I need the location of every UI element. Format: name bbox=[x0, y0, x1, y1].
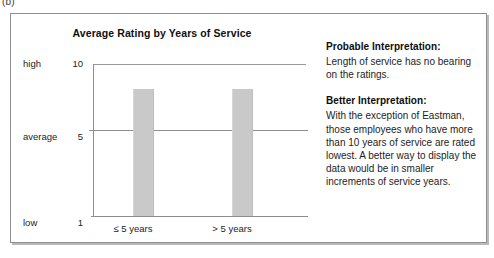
figure-panel: Average Rating by Years of Service high … bbox=[10, 13, 487, 243]
x-axis-tick-le-5-years: ≤ 5 years bbox=[90, 223, 176, 234]
interpretation-column: Probable Interpretation: Length of servi… bbox=[326, 40, 484, 202]
y-axis-tick-high-number: 10 bbox=[72, 58, 83, 70]
x-axis-line bbox=[91, 216, 308, 217]
bar-le-5-years bbox=[133, 89, 154, 216]
bar-gt-5-years bbox=[232, 89, 253, 216]
bar-chart: Average Rating by Years of Service high … bbox=[11, 14, 321, 244]
probable-interpretation-body: Length of service has no bearing on the … bbox=[326, 55, 484, 81]
y-axis-tick-low-word: low bbox=[23, 217, 37, 229]
y-axis-tick-low: low 1 bbox=[11, 217, 87, 229]
y-axis-tick-average-number: 5 bbox=[78, 131, 83, 143]
y-axis-tick-high: high 10 bbox=[11, 58, 87, 70]
better-interpretation-block: Better Interpretation: With the exceptio… bbox=[326, 94, 484, 188]
chart-title: Average Rating by Years of Service bbox=[11, 27, 313, 39]
probable-interpretation-heading: Probable Interpretation: bbox=[326, 40, 484, 54]
y-axis-tick-average: average 5 bbox=[11, 131, 87, 143]
x-axis-tick-gt-5-years: > 5 years bbox=[189, 223, 275, 234]
gridline-average bbox=[89, 130, 308, 131]
plot-top-rule bbox=[93, 64, 306, 65]
figure-label: (b) bbox=[2, 0, 15, 8]
better-interpretation-heading: Better Interpretation: bbox=[326, 94, 484, 108]
probable-interpretation-block: Probable Interpretation: Length of servi… bbox=[326, 40, 484, 81]
y-axis-tick-average-word: average bbox=[23, 131, 57, 143]
plot-area bbox=[93, 64, 306, 217]
y-axis-tick-high-word: high bbox=[23, 58, 41, 70]
y-axis-line bbox=[93, 64, 94, 217]
better-interpretation-body: With the exception of Eastman, those emp… bbox=[326, 109, 484, 188]
y-axis-tick-low-number: 1 bbox=[78, 217, 83, 229]
